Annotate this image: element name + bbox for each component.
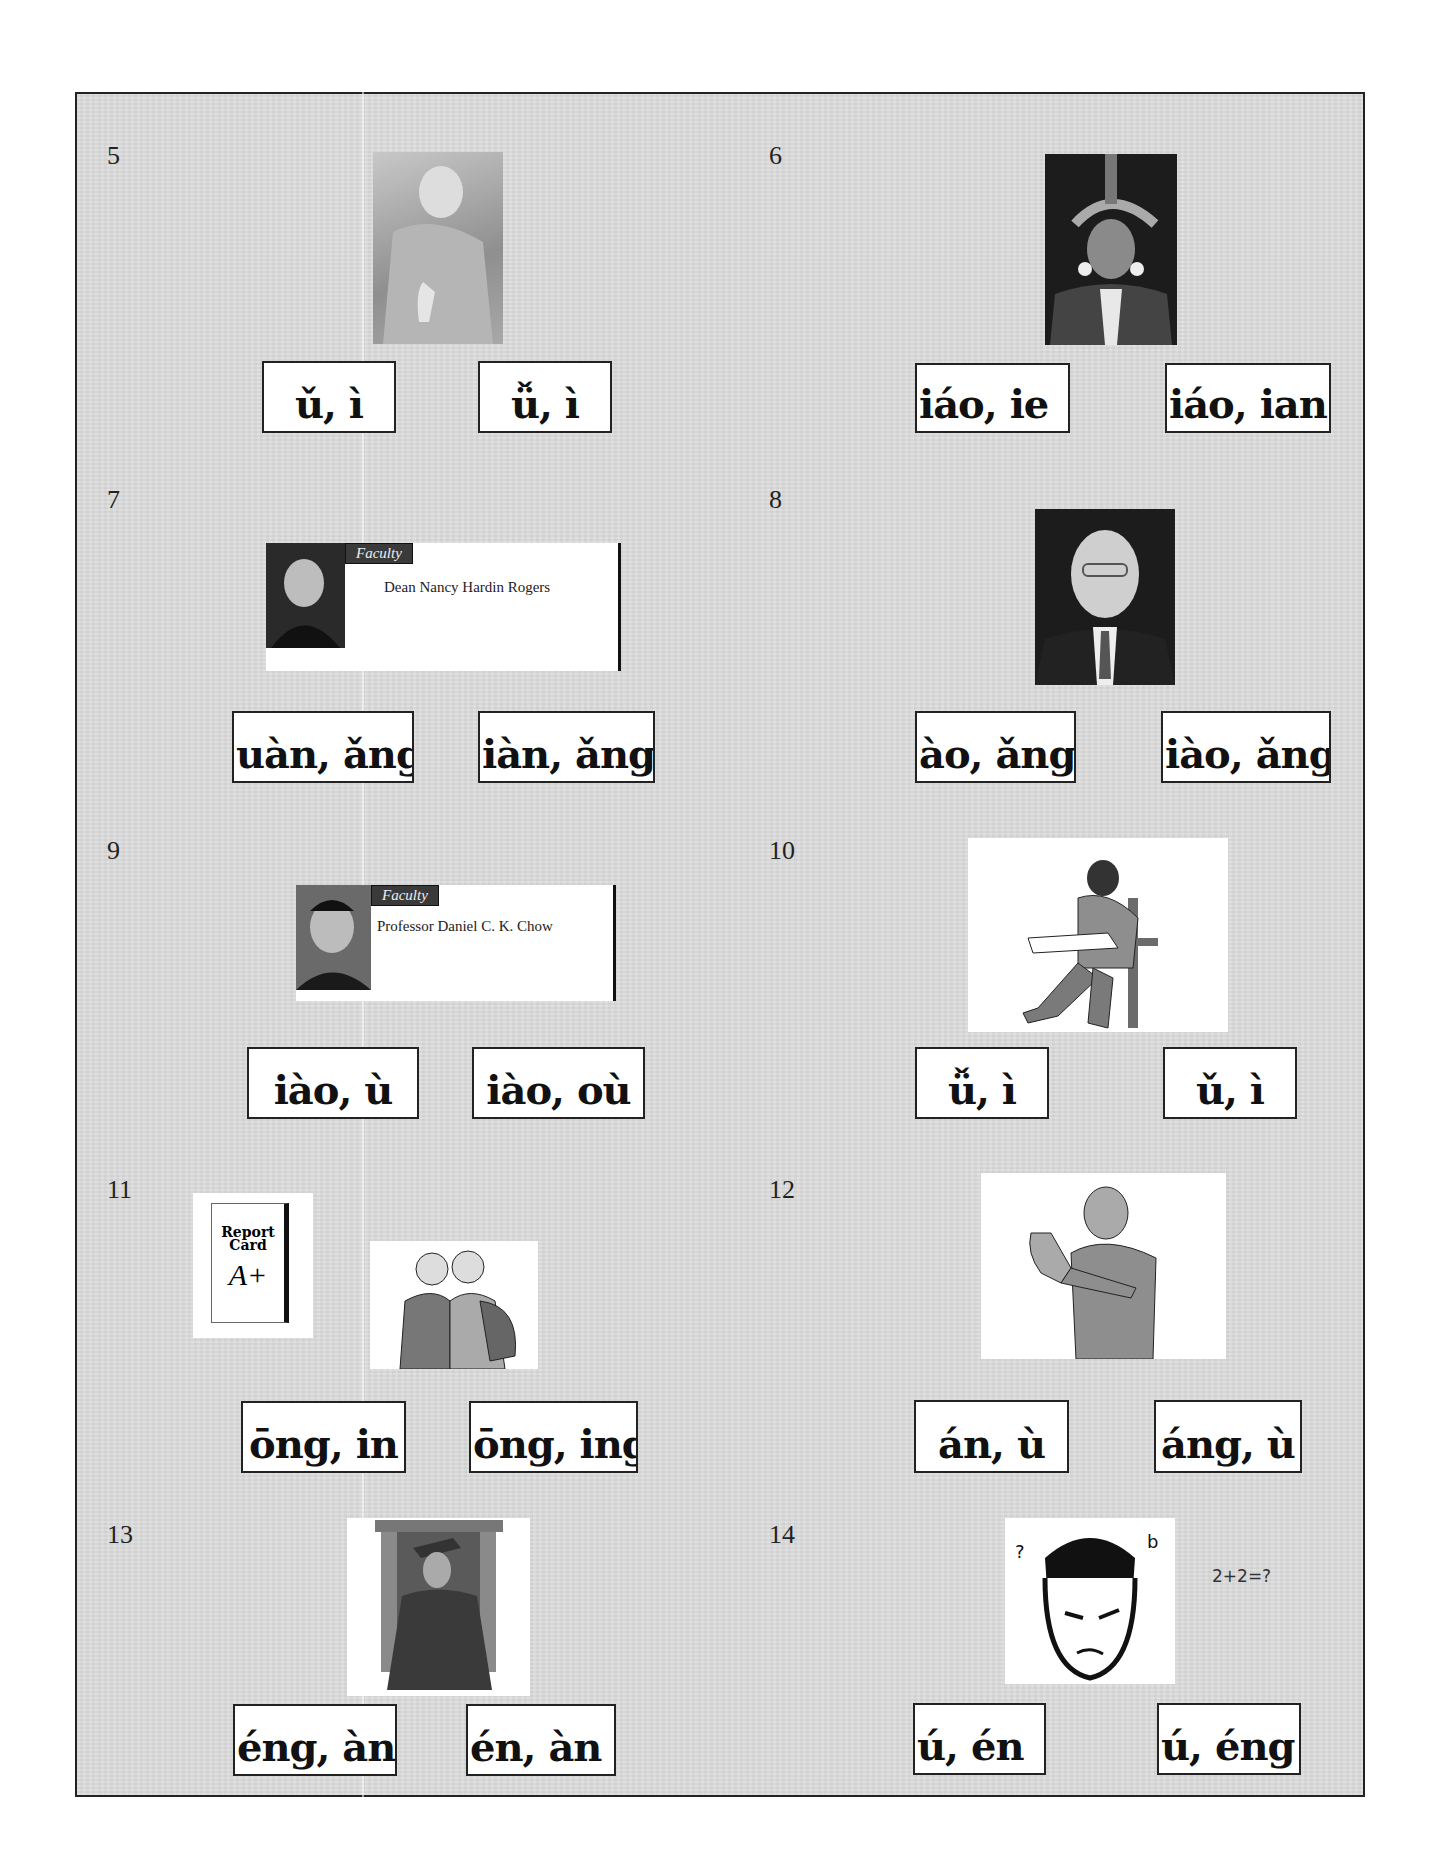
item-number: 10 <box>769 836 795 866</box>
answer-option[interactable]: ōng, in <box>241 1401 406 1473</box>
item-number: 14 <box>769 1520 795 1550</box>
item-number: 9 <box>107 836 120 866</box>
faculty-name: Dean Nancy Hardin Rogers <box>384 579 550 596</box>
answer-option[interactable]: iào, ù <box>247 1047 419 1119</box>
answer-option[interactable]: iáo, ian <box>1165 363 1331 433</box>
answer-option[interactable]: iào, ǎng <box>1161 711 1331 783</box>
item-number: 12 <box>769 1175 795 1205</box>
faculty-photo <box>266 543 345 648</box>
answer-option[interactable]: ú, én <box>913 1703 1046 1775</box>
man-studying-chair-clipart <box>968 838 1228 1032</box>
math-caption: 2+2=? <box>1212 1566 1271 1586</box>
faculty-name: Professor Daniel C. K. Chow <box>377 918 553 935</box>
faculty-tag: Faculty <box>345 543 413 564</box>
svg-text:?: ? <box>1015 1541 1025 1562</box>
two-students-clipart <box>370 1241 538 1369</box>
answer-option[interactable]: éng, àn <box>233 1704 397 1776</box>
report-card: Report Card A+ <box>211 1203 289 1323</box>
item-number: 11 <box>107 1175 132 1205</box>
grade-mark: A+ <box>212 1268 284 1281</box>
answer-option[interactable]: iáo, ie <box>915 363 1070 433</box>
answer-option[interactable]: ǚ, ì <box>478 361 612 433</box>
woman-thumbs-down-photo <box>373 152 503 344</box>
report-card-clipart: Report Card A+ <box>193 1193 313 1338</box>
svg-text:b: b <box>1147 1531 1158 1552</box>
answer-option[interactable]: án, ù <box>914 1400 1069 1473</box>
answer-option[interactable]: iàn, ǎng <box>478 711 655 783</box>
answer-option[interactable]: ǔ, ì <box>1163 1047 1297 1119</box>
answer-option[interactable]: uàn, ǎng <box>232 711 414 783</box>
man-glasses-suit-photo <box>1035 509 1175 685</box>
item-number: 6 <box>769 141 782 171</box>
answer-option[interactable]: ōng, ing <box>469 1401 638 1473</box>
item-number: 8 <box>769 485 782 515</box>
answer-option[interactable]: ǔ, ì <box>262 361 396 433</box>
item-number: 13 <box>107 1520 133 1550</box>
item-number: 5 <box>107 141 120 171</box>
answer-option[interactable]: iào, où <box>472 1047 645 1119</box>
item-number: 7 <box>107 485 120 515</box>
faculty-card-man: Faculty Professor Daniel C. K. Chow <box>296 885 616 1001</box>
answer-option[interactable]: ú, éng <box>1157 1703 1301 1775</box>
man-refusing-clipart <box>981 1173 1226 1359</box>
confused-man-face-clipart: ? b <box>1005 1518 1175 1684</box>
faculty-photo <box>296 885 371 990</box>
answer-option[interactable]: én, àn <box>466 1704 616 1776</box>
faculty-card-woman: Faculty Dean Nancy Hardin Rogers <box>266 543 621 671</box>
faculty-tag: Faculty <box>371 885 439 906</box>
answer-option[interactable]: ào, ǎng <box>915 711 1076 783</box>
graduate-clipart <box>347 1518 530 1696</box>
woman-feather-headdress-photo <box>1045 154 1177 345</box>
answer-option[interactable]: áng, ù <box>1154 1400 1302 1473</box>
answer-option[interactable]: ǚ, ì <box>915 1047 1049 1119</box>
